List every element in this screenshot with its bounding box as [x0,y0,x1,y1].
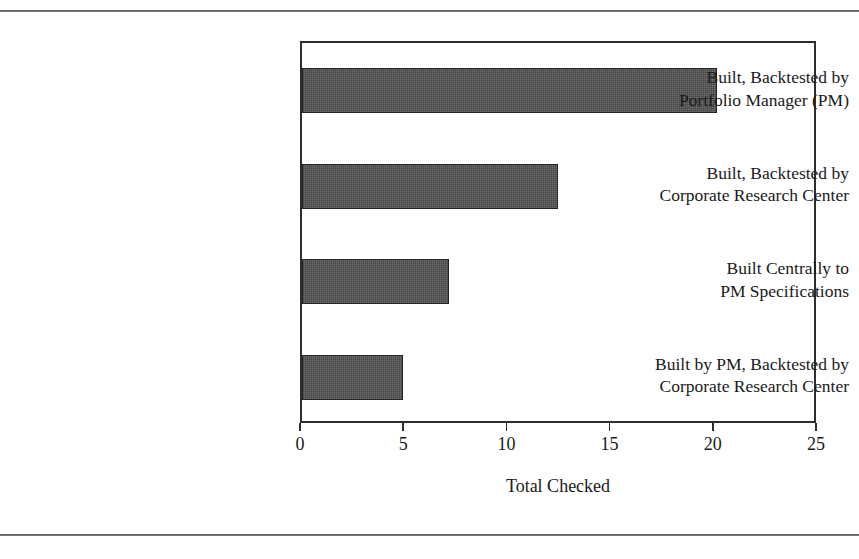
bar [302,355,403,400]
bar [302,164,558,209]
y-axis-category-label-line: Portfolio Manager (PM) [567,89,849,111]
y-axis-category-label-line: Corporate Research Center [567,375,849,397]
page-rule-top [0,10,859,12]
y-axis-category-label-line: Corporate Research Center [567,184,849,206]
x-axis-tick-label: 25 [786,434,846,455]
x-axis-tick-label: 0 [270,434,330,455]
x-axis-tick-mark [402,423,404,431]
x-axis-tick-mark [712,423,714,431]
x-axis-tick-label: 5 [373,434,433,455]
y-axis-category-label-line: Built by PM, Backtested by [567,353,849,375]
y-axis-category-label-line: Built Centrally to [567,257,849,279]
x-axis-tick-mark [299,423,301,431]
x-axis-tick-label: 10 [476,434,536,455]
bar [302,259,449,304]
y-axis-category-label-line: PM Specifications [567,280,849,302]
x-axis-tick-label: 20 [683,434,743,455]
x-axis-tick-mark [506,423,508,431]
page-rule-bottom [0,534,859,536]
y-axis-category-label: Built, Backtested byCorporate Research C… [567,162,859,207]
bar-chart-figure: Built, Backtested byPortfolio Manager (P… [0,14,859,529]
y-axis-category-label: Built by PM, Backtested byCorporate Rese… [567,353,859,398]
x-axis-title: Total Checked [300,476,816,497]
x-axis-tick-mark [815,423,817,431]
x-axis-tick-label: 15 [580,434,640,455]
y-axis-category-label-line: Built, Backtested by [567,162,849,184]
x-axis-tick-mark [609,423,611,431]
clipped-header-text [0,0,859,6]
y-axis-category-label-line: Built, Backtested by [567,66,849,88]
y-axis-category-label: Built Centrally toPM Specifications [567,257,859,302]
y-axis-category-label: Built, Backtested byPortfolio Manager (P… [567,66,859,111]
